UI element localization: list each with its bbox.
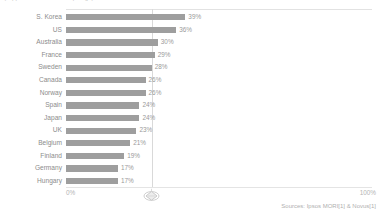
bar-track: 26% [66,74,382,87]
bar-track: 39% [66,11,382,24]
bar-value-label: 28% [155,64,168,70]
bar[interactable] [66,65,152,71]
bar[interactable] [66,115,139,121]
bar-row: France29% [0,49,382,62]
bar-row: Australia30% [0,36,382,49]
bar-row: Spain24% [0,99,382,112]
bar-row: Norway26% [0,87,382,100]
bar-category-label: UK [0,127,66,134]
bar[interactable] [66,153,124,159]
plot-top-rule [66,9,372,10]
bar-track: 29% [66,49,382,62]
bar-value-label: 19% [127,153,140,159]
bar-track: 17% [66,162,382,175]
bar-track: 30% [66,36,382,49]
bar-category-label: S. Korea [0,14,66,21]
bar-rows: S. Korea39%US36%Australia30%France29%Swe… [0,11,382,187]
x-axis: 0% 100% [0,187,382,201]
bar-row: UK23% [0,124,382,137]
bar-row: S. Korea39% [0,11,382,24]
bar-row: Finland19% [0,150,382,163]
bar[interactable] [66,52,155,58]
bar-category-label: Norway [0,90,66,97]
diamond-marker-icon[interactable] [143,188,160,202]
x-axis-min-label: 0% [66,190,75,196]
bar-row: Sweden28% [0,61,382,74]
bar-category-label: Germany [0,165,66,172]
bar[interactable] [66,77,146,83]
bar-row: US36% [0,24,382,37]
bar-category-label: France [0,52,66,59]
bar-chart: (clipped header text at top edge) S. Kor… [0,0,382,217]
bar[interactable] [66,27,176,33]
bar-track: 23% [66,124,382,137]
bar-value-label: 23% [139,127,152,133]
bar-track: 26% [66,87,382,100]
bar-track: 24% [66,112,382,125]
bar-track: 28% [66,61,382,74]
bar-track: 21% [66,137,382,150]
bar[interactable] [66,165,118,171]
bar-row: Hungary17% [0,175,382,188]
bar-category-label: Finland [0,153,66,160]
bar[interactable] [66,39,158,45]
bar-value-label: 39% [188,14,201,20]
bar-value-label: 17% [121,165,134,171]
bar-value-label: 24% [142,115,155,121]
bar-category-label: Hungary [0,178,66,185]
bar-category-label: Australia [0,39,66,46]
bar[interactable] [66,178,118,184]
bar[interactable] [66,140,130,146]
bar-row: Japan24% [0,112,382,125]
bar-value-label: 29% [158,52,171,58]
bar-value-label: 26% [149,77,162,83]
source-attribution: Sources: Ipsos MORI[1] & Novus[1] [281,203,376,209]
x-axis-max-label: 100% [360,190,376,196]
bar-value-label: 21% [133,140,146,146]
bar-row: Canada26% [0,74,382,87]
bar-category-label: Spain [0,102,66,109]
chart-title: (clipped header text at top edge) [4,0,94,2]
bar-value-label: 30% [161,39,174,45]
bar-track: 19% [66,150,382,163]
bar-value-label: 26% [149,90,162,96]
bar-track: 17% [66,175,382,188]
plot-area: S. Korea39%US36%Australia30%France29%Swe… [0,9,382,187]
bar[interactable] [66,14,185,20]
bar-category-label: Belgium [0,140,66,147]
bar[interactable] [66,102,139,108]
bar-value-label: 36% [179,27,192,33]
bar-category-label: Japan [0,115,66,122]
bar-category-label: Canada [0,77,66,84]
bar-value-label: 17% [121,178,134,184]
bar-track: 36% [66,24,382,37]
bar[interactable] [66,128,136,134]
bar-category-label: Sweden [0,64,66,71]
bar[interactable] [66,90,146,96]
bar-value-label: 24% [142,102,155,108]
x-axis-rule [66,187,372,188]
bar-row: Germany17% [0,162,382,175]
bar-track: 24% [66,99,382,112]
bar-row: Belgium21% [0,137,382,150]
bar-category-label: US [0,27,66,34]
